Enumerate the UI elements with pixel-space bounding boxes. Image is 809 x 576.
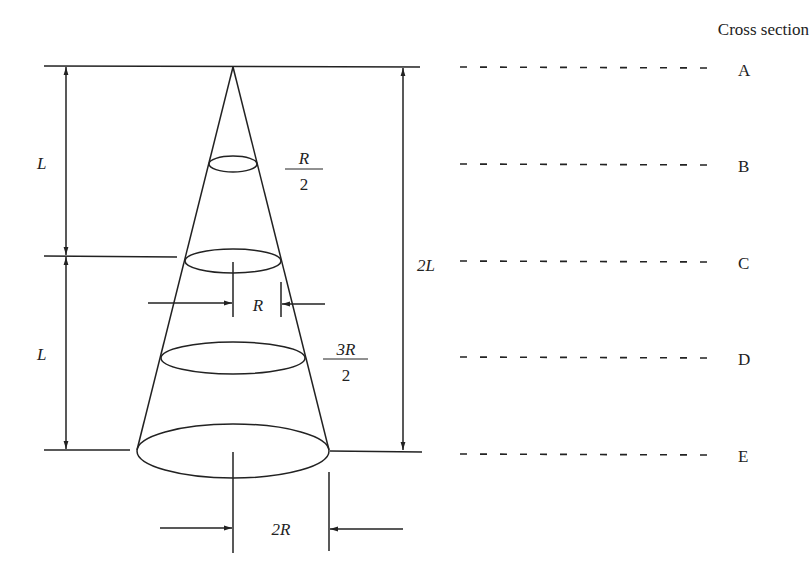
cross-section-header: Cross section [718, 20, 809, 39]
section-label-c: C [738, 254, 749, 273]
bottom-reference-line-right [330, 451, 422, 452]
section-label-d: D [738, 350, 750, 369]
section-label-e: E [738, 447, 748, 466]
section-label-b: B [738, 157, 749, 176]
lower-length-label: L [36, 345, 46, 364]
section-b-ellipse [209, 156, 257, 172]
upper-length-label: L [36, 154, 46, 173]
section-guide-e [460, 454, 713, 455]
section-guide-a [460, 67, 713, 68]
radius-d-numerator: 3R [336, 340, 357, 359]
section-guide-c [460, 261, 713, 262]
radius-e-label: 2R [272, 520, 292, 539]
top-reference-line [44, 66, 420, 67]
middle-reference-line [44, 256, 177, 257]
cone-right-side [233, 67, 329, 450]
section-d-ellipse [161, 342, 305, 374]
radius-d-denominator: 2 [342, 366, 351, 385]
section-guides [460, 67, 713, 455]
section-guide-b [460, 164, 713, 165]
radius-c-label: R [252, 296, 264, 315]
radius-b-numerator: R [298, 149, 310, 168]
section-label-a: A [738, 61, 751, 80]
radius-b-denominator: 2 [300, 175, 309, 194]
total-length-label: 2L [417, 256, 435, 275]
cone-left-side [137, 67, 233, 450]
section-guide-d [460, 357, 713, 358]
cone-diagram: Cross section A B C D E L L 2L R 2 R 3R … [0, 0, 809, 576]
